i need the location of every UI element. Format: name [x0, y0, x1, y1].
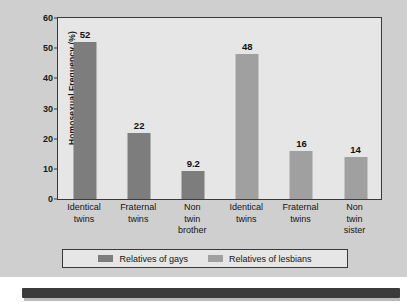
y-axis-tick-label: 0 — [23, 194, 58, 204]
x-axis-category-line: Fraternal — [111, 202, 165, 214]
x-axis-category-label: Nontwinbrother — [165, 202, 219, 237]
bar-column: 48 — [220, 18, 274, 199]
legend-item-lesbians: Relatives of lesbians — [208, 254, 312, 264]
bar-column: 22 — [112, 18, 166, 199]
x-axis-category-line: twins — [57, 214, 111, 226]
x-axis-category-line: Non — [328, 202, 382, 214]
x-axis-category-label: Fraternaltwins — [273, 202, 327, 225]
x-axis-category-line: Non — [165, 202, 219, 214]
legend-label: Relatives of gays — [119, 254, 188, 264]
bar-value-label: 48 — [242, 41, 253, 52]
plot-frame: Homosexual Frequency (%) 0102030405060 5… — [57, 17, 382, 200]
legend-swatch-icon — [98, 255, 113, 262]
scanned-page: Hormonal Factors thought to hormones the… — [0, 0, 407, 303]
bar-value-label: 16 — [296, 138, 307, 149]
bar: 14 — [344, 157, 367, 199]
y-axis-tick-label: 50 — [23, 43, 58, 53]
legend-label: Relatives of lesbians — [229, 254, 312, 264]
x-axis-labels: IdenticaltwinsFraternaltwinsNontwinbroth… — [57, 202, 382, 244]
bar-column: 9.2 — [166, 18, 220, 199]
y-axis-tick-label: 20 — [23, 134, 58, 144]
bar-value-label: 9.2 — [187, 158, 200, 169]
x-axis-category-line: twins — [219, 214, 273, 226]
bottom-dark-strip — [22, 288, 400, 298]
bars-area: 52229.2481614 — [58, 18, 381, 199]
x-axis-category-line: brother — [165, 225, 219, 237]
x-axis-category-line: Identical — [219, 202, 273, 214]
bar: 9.2 — [182, 171, 205, 199]
bar-value-label: 22 — [134, 120, 145, 131]
x-axis-category-label: Fraternaltwins — [111, 202, 165, 225]
x-axis-category-label: Nontwinsister — [328, 202, 382, 237]
x-axis-category-label: Identicaltwins — [219, 202, 273, 225]
x-axis-category-line: Fraternal — [273, 202, 327, 214]
y-axis-tick-label: 30 — [23, 104, 58, 114]
bar-column: 52 — [58, 18, 112, 199]
y-axis-tick-label: 10 — [23, 164, 58, 174]
legend-swatch-icon — [208, 255, 223, 262]
bar-column: 16 — [274, 18, 328, 199]
chart-legend: Relatives of gays Relatives of lesbians — [62, 249, 348, 268]
x-axis-category-line: twins — [111, 214, 165, 226]
bar: 16 — [290, 151, 313, 199]
bar: 48 — [236, 54, 259, 199]
x-axis-category-line: sister — [328, 225, 382, 237]
bottom-strip-shadow — [24, 298, 400, 301]
plot-area: 0102030405060 52229.2481614 — [58, 18, 381, 199]
figure-panel: Hormonal Factors thought to hormones the… — [0, 0, 407, 277]
y-axis-tick-label: 40 — [23, 73, 58, 83]
x-axis-category-line: twin — [165, 214, 219, 226]
x-axis-category-line: twins — [273, 214, 327, 226]
bar-column: 14 — [329, 18, 383, 199]
bar: 52 — [74, 42, 97, 199]
bar-value-label: 52 — [80, 29, 91, 40]
x-axis-category-label: Identicaltwins — [57, 202, 111, 225]
bar: 22 — [128, 133, 151, 199]
x-axis-category-line: twin — [328, 214, 382, 226]
legend-item-gays: Relatives of gays — [98, 254, 188, 264]
bar-value-label: 14 — [350, 144, 361, 155]
y-axis-tick-label: 60 — [23, 13, 58, 23]
x-axis-category-line: Identical — [57, 202, 111, 214]
